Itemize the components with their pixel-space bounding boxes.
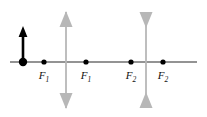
focal-points-group: F1 F1 F2 F2: [38, 59, 169, 83]
focal-point-f2-right-dot: [160, 59, 165, 64]
focal-point-f1-left-subscript: 1: [45, 75, 49, 84]
focal-point-f1-right-dot: [83, 59, 88, 64]
focal-point-f2-left-dot: [128, 59, 133, 64]
lens-diverging-arrowhead-bottom: [140, 92, 153, 108]
lens-converging: [60, 11, 73, 109]
optics-diagram-canvas: F1 F1 F2 F2: [0, 0, 207, 117]
lens-diverging: [140, 12, 153, 108]
focal-point-f1-right-label: F1: [80, 69, 91, 84]
focal-point-f1-left-dot: [41, 59, 46, 64]
object-arrow: [19, 26, 28, 66]
focal-point-f2-right-label: F2: [157, 69, 169, 84]
optics-figure: F1 F1 F2 F2: [0, 0, 207, 117]
focal-point-f2-right-subscript: 2: [164, 75, 168, 84]
object-base-point: [19, 58, 27, 66]
lens-converging-arrowhead-bottom: [60, 93, 73, 109]
lens-converging-arrowhead-top: [60, 11, 73, 27]
lens-diverging-arrowhead-top: [140, 12, 153, 28]
object-arrow-head: [19, 26, 28, 37]
focal-point-f2-left-label: F2: [125, 69, 137, 84]
focal-point-f2-left-subscript: 2: [132, 75, 136, 84]
focal-point-f1-left-label: F1: [38, 69, 49, 84]
focal-point-f1-right-subscript: 1: [87, 75, 91, 84]
